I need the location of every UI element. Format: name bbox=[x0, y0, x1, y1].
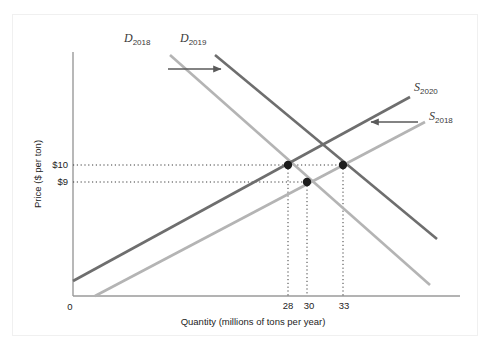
y-tick-label-9: $9 bbox=[57, 176, 68, 187]
origin-label: 0 bbox=[67, 301, 72, 312]
curve-label-D-2018: D2018 bbox=[123, 31, 151, 47]
curve-S-2018 bbox=[95, 122, 425, 296]
guide-lines bbox=[73, 165, 343, 296]
equilibrium-point-2018 bbox=[284, 161, 292, 169]
x-tick-labels: 28 30 33 bbox=[283, 300, 350, 311]
equilibrium-point-2020 bbox=[339, 161, 347, 169]
figure-page: D2018 D2019 S2020 S2018 $10 $9 28 30 33 … bbox=[0, 0, 492, 352]
curve-labels: D2018 D2019 S2020 S2018 bbox=[123, 31, 453, 125]
curve-D-2019 bbox=[215, 55, 437, 239]
x-axis-title: Quantity (millions of tons per year) bbox=[181, 316, 326, 327]
curve-label-D-2019: D2019 bbox=[179, 31, 207, 47]
x-tick-label-33: 33 bbox=[339, 300, 350, 311]
y-axis-title: Price ($ per ton) bbox=[32, 140, 43, 208]
curve-label-S-2020: S2020 bbox=[414, 80, 438, 96]
x-tick-label-30: 30 bbox=[304, 300, 315, 311]
supply-demand-chart: D2018 D2019 S2020 S2018 $10 $9 28 30 33 … bbox=[0, 0, 492, 352]
x-tick-label-28: 28 bbox=[283, 300, 294, 311]
curve-D-2018 bbox=[170, 55, 430, 285]
curve-label-S-2018: S2018 bbox=[429, 109, 453, 125]
y-tick-labels: $10 $9 bbox=[52, 159, 68, 187]
y-tick-label-10: $10 bbox=[52, 159, 68, 170]
equilibrium-point-2019 bbox=[303, 178, 311, 186]
curve-S-2020 bbox=[73, 97, 410, 281]
curves bbox=[73, 55, 437, 296]
